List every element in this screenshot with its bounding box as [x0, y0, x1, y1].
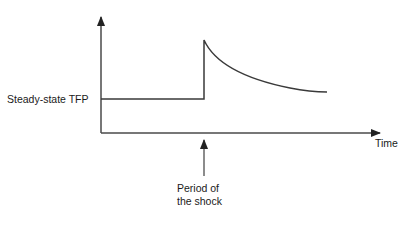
- shock-period-label: Period of the shock: [177, 182, 237, 208]
- shock-period-label-line1: Period of: [177, 182, 237, 195]
- shock-period-label-line2: the shock: [177, 195, 237, 208]
- time-axis-label: Time: [375, 137, 398, 150]
- tfp-path-line: [101, 40, 327, 99]
- steady-state-tfp-label: Steady-state TFP: [7, 93, 89, 106]
